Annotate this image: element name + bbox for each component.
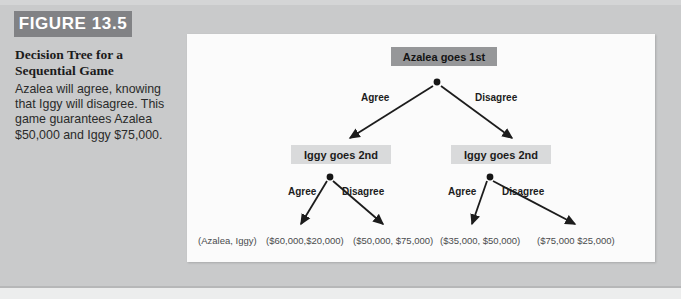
payoff-outcome-3: ($35,000, $50,000) bbox=[440, 235, 520, 246]
figure-number-label: FIGURE 13.5 bbox=[19, 14, 128, 34]
payoff-outcome-4: ($75,000 $25,000) bbox=[537, 235, 615, 246]
node-iggy-goes-2nd-right-label: Iggy goes 2nd bbox=[464, 149, 538, 161]
payoff-key-label: (Azalea, Iggy) bbox=[198, 235, 257, 246]
figure-title: Decision Tree for a Sequential Game bbox=[15, 47, 167, 78]
figure-container: FIGURE 13.5 Decision Tree for a Sequenti… bbox=[0, 0, 681, 299]
bottom-light-band bbox=[0, 288, 681, 299]
edge-label-root-disagree: Disagree bbox=[475, 92, 517, 103]
decision-tree-edges bbox=[187, 34, 655, 262]
payoff-outcome-1: ($60,000,$20,000) bbox=[266, 235, 344, 246]
decision-tree-panel: Azalea goes 1st Iggy goes 2nd Iggy goes … bbox=[187, 34, 655, 262]
edge-label-left-agree: Agree bbox=[288, 186, 316, 197]
node-azalea-goes-1st-label: Azalea goes 1st bbox=[403, 51, 486, 63]
figure-caption-block: Decision Tree for a Sequential Game Azal… bbox=[15, 47, 167, 143]
edge-label-right-disagree: Disagree bbox=[502, 186, 544, 197]
payoff-outcome-2: ($50,000, $75,000) bbox=[353, 235, 433, 246]
node-azalea-goes-1st: Azalea goes 1st bbox=[391, 47, 497, 66]
edge-label-left-disagree: Disagree bbox=[342, 186, 384, 197]
node-iggy-goes-2nd-left: Iggy goes 2nd bbox=[291, 145, 391, 164]
edge-label-root-agree: Agree bbox=[361, 92, 389, 103]
left-decision-node-dot bbox=[327, 174, 334, 181]
figure-description: Azalea will agree, knowing that Iggy wil… bbox=[15, 82, 167, 143]
top-band-divider bbox=[0, 0, 681, 5]
right-decision-node-dot bbox=[487, 174, 494, 181]
node-iggy-goes-2nd-left-label: Iggy goes 2nd bbox=[304, 149, 378, 161]
root-decision-node-dot bbox=[434, 79, 441, 86]
node-iggy-goes-2nd-right: Iggy goes 2nd bbox=[451, 145, 551, 164]
edge-label-right-agree: Agree bbox=[448, 186, 476, 197]
figure-number-badge: FIGURE 13.5 bbox=[14, 11, 132, 37]
